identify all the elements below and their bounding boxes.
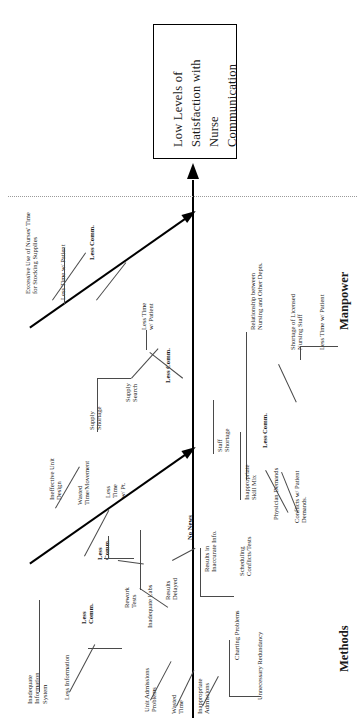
tick-less-time-2	[146, 330, 147, 350]
twig-supply-shortage	[97, 378, 131, 379]
fishbone-diagram-canvas: Low Levels of Satisfaction with Nurse Co…	[0, 0, 357, 718]
effect-box: Low Levels of Satisfaction with Nurse Co…	[153, 24, 237, 159]
twig-shortage-licensed	[278, 364, 297, 402]
twig-less-comm-4	[104, 558, 134, 559]
effect-line-3: Nurse	[205, 116, 223, 147]
bone-manpower	[29, 214, 191, 328]
label-excessive-supplies: Excessive Use of Nurses' Time for Stocki…	[24, 212, 39, 294]
tick-less-time-3b	[300, 346, 301, 360]
label-less-comm-5: Less Comm.	[80, 603, 95, 624]
effect-line-2: Satisfaction with	[187, 59, 205, 147]
label-inadequate-labs: Inadequate Labs	[146, 585, 153, 628]
label-results-delayed: Results Delayed	[164, 578, 179, 600]
tick-scheduling-conflicts	[200, 596, 234, 597]
tick-relationship-depts	[246, 332, 247, 480]
effect-line-1: Low Levels of	[169, 72, 187, 148]
spine-arrowhead	[187, 163, 199, 179]
label-results-inaccurate: Results in Inaccurate Info.	[203, 530, 218, 572]
effect-line-4: Communication	[223, 64, 241, 147]
label-less-time-patient-1: Less Time w/ Patient	[59, 244, 66, 300]
label-less-comm-3: Less Comm.	[261, 413, 268, 448]
label-inadequate-info-system: Inadequate Information System	[26, 673, 48, 705]
category-label-manpower: Manpower	[337, 272, 352, 330]
tick-inadequate-info	[39, 600, 40, 692]
label-relationship-depts: Relationship between Nursing and Other D…	[249, 262, 264, 330]
label-conflicts-patient-demands: Conflicts w/ Patient Demands.	[293, 471, 308, 523]
label-less-time-patient-3: Less Time w/ Patient	[318, 294, 325, 350]
label-less-information: Less Information	[63, 655, 70, 700]
tick-charting-problems	[229, 640, 230, 696]
twig-less-comm-5	[88, 648, 122, 649]
tick-unnecessary-redundancy	[229, 696, 261, 697]
tick-inadequate-labs	[140, 530, 141, 590]
label-ineffective-unit-design: Ineffective Unit Design	[48, 458, 63, 500]
tick-supply-shortage	[97, 378, 98, 432]
label-no-news: No News	[186, 515, 193, 540]
label-rework-tests: Rework Tests	[123, 587, 138, 608]
tick-skill-mix	[240, 432, 241, 500]
label-less-comm-1: Less Comm.	[88, 225, 95, 260]
category-label-methods: Methods	[337, 625, 352, 672]
label-staff-shortage: Staff Shortage	[216, 429, 231, 452]
tick-results-inaccurate	[200, 548, 201, 596]
label-scheduling-conflicts: Scheduling Conflicts/Tests	[238, 537, 253, 576]
twig-less-information	[69, 644, 95, 692]
label-inappropriate-skill-mix: Inappropriate Skill Mix	[243, 464, 258, 500]
label-less-time-pt: Less Time w/ Pt.	[104, 483, 126, 498]
top-separator	[8, 196, 357, 197]
tick-staff-shortage	[213, 400, 214, 454]
label-charting-problems: Charting Problems	[233, 610, 240, 660]
tick-less-time-1	[64, 248, 65, 304]
label-unnecessary-redundancy: Unnecessary Redundancy	[256, 632, 263, 700]
tick-less-time-3	[300, 346, 338, 347]
tick-less-time-pt	[108, 536, 109, 558]
label-shortage-licensed: Shortage of Licensed Nursing Staff	[289, 294, 304, 350]
twig-excessive-supplies	[52, 252, 86, 300]
label-inappropriate-admissions: Inappropriate Admissions	[196, 678, 211, 714]
label-less-time-patient-2: Less Time w/ Patient	[140, 303, 155, 330]
label-supply-shortage: Supply Shortage	[88, 407, 103, 430]
twig-supply-search	[131, 348, 158, 378]
label-supply-search: Supply Search	[124, 383, 139, 402]
